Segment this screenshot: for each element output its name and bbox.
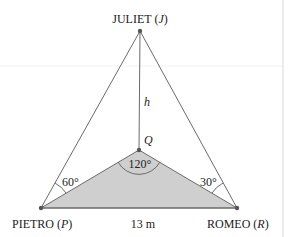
angle-label-r: 30° (200, 175, 217, 189)
label-pietro: PIETRO (P) (12, 217, 72, 231)
line-jq-height (139, 31, 140, 150)
label-base-length: 13 m (131, 217, 156, 231)
label-q: Q (144, 133, 153, 147)
label-juliet: JULIET (J) (112, 12, 167, 26)
angle-label-q: 120° (129, 157, 152, 171)
label-h: h (144, 95, 150, 109)
point-p (39, 206, 43, 210)
point-j (138, 29, 142, 33)
point-q (137, 148, 141, 152)
angle-label-p: 60° (62, 175, 79, 189)
point-r (235, 206, 239, 210)
label-romeo: ROMEO (R) (207, 217, 269, 231)
triangle-diagram: JULIET (J) h Q 120° 60° 30° PIETRO (P) 1… (0, 0, 294, 237)
